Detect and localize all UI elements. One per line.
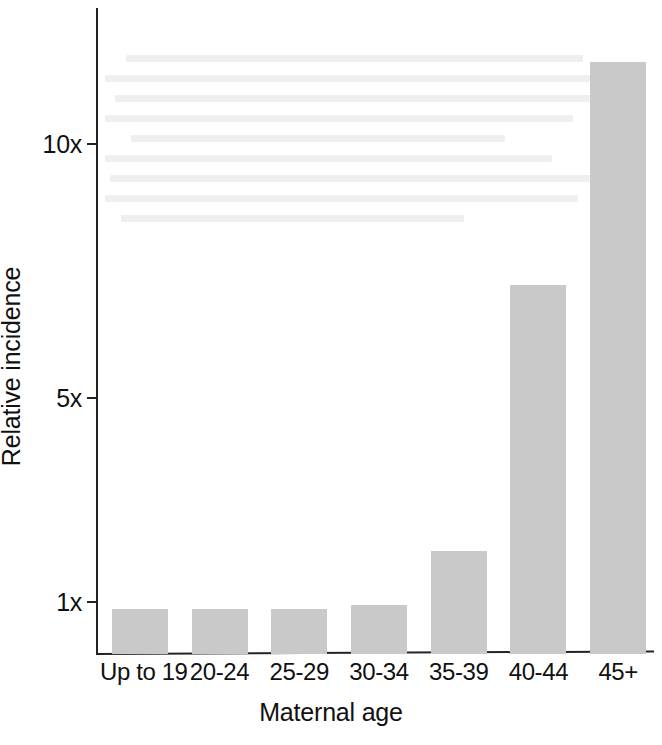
- bar-3: [351, 605, 407, 654]
- plot-area: 1x 5x 10x Up to 19 20-24 25-29 30-34 35-…: [96, 8, 654, 655]
- y-axis-title: Relative incidence: [0, 87, 26, 647]
- y-tick-label-0: 1x: [56, 589, 82, 614]
- y-tick-label-1: 5x: [56, 385, 82, 410]
- x-tick-label-4: 35-39: [419, 660, 499, 684]
- bar-1: [192, 609, 248, 654]
- bar-4: [431, 551, 487, 654]
- bar-0: [112, 609, 168, 654]
- x-tick-label-6: 45+: [578, 660, 658, 684]
- bars-container: [96, 8, 654, 654]
- y-tick-label-2: 10x: [43, 131, 82, 156]
- x-tick-label-3: 30-34: [339, 660, 419, 684]
- bar-6: [590, 62, 646, 654]
- bar-chart-figure: 1x 5x 10x Up to 19 20-24 25-29 30-34 35-…: [0, 0, 662, 745]
- x-tick-label-5: 40-44: [499, 660, 579, 684]
- x-tick-label-0: Up to 19: [100, 660, 180, 684]
- x-tick-label-1: 20-24: [180, 660, 260, 684]
- x-axis-title: Maternal age: [0, 698, 662, 727]
- x-tick-label-2: 25-29: [259, 660, 339, 684]
- bar-2: [271, 609, 327, 654]
- bar-5: [510, 285, 566, 654]
